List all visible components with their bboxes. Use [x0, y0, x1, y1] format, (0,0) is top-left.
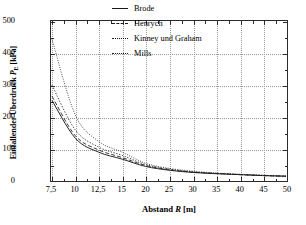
y-axis-title-subscript: E	[13, 66, 19, 70]
y-axis-tick-label: 400	[0, 49, 15, 57]
legend-line-swatch	[112, 53, 128, 54]
x-axis-title-post: [m]	[181, 204, 196, 214]
y-axis-tick-label: 100	[0, 145, 15, 153]
legend-item-label: Henrych	[134, 19, 163, 28]
legend-item-label: Mills	[134, 49, 152, 58]
y-axis-tick-label: 500	[0, 17, 15, 25]
y-axis-tick-label: 0	[0, 177, 15, 185]
x-axis-tick-label: 50	[272, 186, 302, 194]
y-axis-title: Einfallender Überdruck PE [kPa]	[9, 23, 18, 183]
legend-line-swatch	[112, 8, 128, 9]
legend-item: Henrych	[112, 16, 236, 31]
chart-legend: BrodeHenrychKinney und GrahamMills	[112, 1, 236, 61]
y-axis-tick-label: 300	[0, 81, 15, 89]
series-line	[52, 96, 286, 176]
legend-item: Kinney und Graham	[112, 31, 236, 46]
legend-line-swatch	[112, 38, 128, 39]
x-axis-title-pre: Abstand	[142, 204, 175, 214]
legend-item-label: Brode	[134, 4, 154, 13]
series-line	[52, 85, 286, 176]
legend-item: Mills	[112, 46, 236, 61]
legend-line-swatch	[112, 23, 128, 24]
series-line	[52, 100, 286, 176]
y-axis-tick-label: 200	[0, 113, 15, 121]
x-axis-title: Abstand R [m]	[50, 204, 288, 214]
y-axis-title-symbol: P	[9, 70, 18, 75]
chart-figure: Einfallender Überdruck PE [kPa] Abstand …	[0, 0, 306, 225]
legend-item-label: Kinney und Graham	[134, 34, 202, 43]
legend-item: Brode	[112, 1, 236, 16]
